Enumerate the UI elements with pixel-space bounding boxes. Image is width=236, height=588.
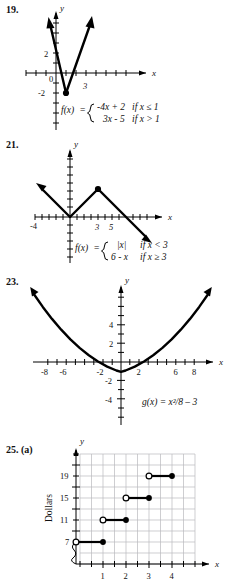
equation-23: g(x) = x²/8 – 3 (142, 397, 197, 408)
closed-endpoint-2 (146, 495, 152, 501)
x-tick-label-25a-3: 3 (147, 571, 151, 581)
equation-21-brace (102, 242, 109, 260)
x-tick-label-23-neg6: -6 (60, 367, 67, 377)
x-axis-arrow-19 (139, 71, 146, 76)
x-axis-arrow-23 (206, 360, 213, 365)
x-axis-label-21: x (167, 212, 172, 222)
y-axis-arrow-23 (119, 285, 124, 293)
y-tick-label-25a-11: 11 (60, 515, 68, 525)
branch-left-21 (43, 190, 70, 217)
x-tick-label-23-neg2: -2 (97, 367, 104, 377)
graph-21: x y -4 3 5 f(x) = |x| if x < 3 6 - x if … (22, 135, 232, 265)
x-axis-label-19: x (151, 68, 156, 78)
x-axis-arrow-25a (202, 562, 209, 567)
y-tick-label-23-4: 4 (109, 320, 114, 330)
origin-label-19: 0 (49, 74, 53, 84)
x-tick-label-21-5: 5 (109, 222, 113, 232)
problem-number-21: 21. (6, 139, 19, 150)
vertex-point-19 (63, 90, 69, 96)
graph-19: x y 0 3 2 -2 f(x) = -4x + 2 if x ≤ 1 3x … (28, 0, 228, 135)
axis-lines-25a (76, 450, 209, 564)
y-axis-label-19: y (59, 3, 64, 13)
equation-19-piece-1-expr: 3x - 5 (102, 114, 125, 124)
closed-endpoint-0 (100, 539, 106, 545)
y-axis-label-23: y (124, 275, 129, 285)
figure-21: 21. (0, 135, 236, 265)
equation-19-brace (88, 104, 95, 122)
open-endpoint-3 (146, 473, 152, 479)
branch-right-21 (98, 189, 145, 236)
equation-19: f(x) = -4x + 2 if x ≤ 1 3x - 5 if x > 1 (61, 102, 160, 124)
y-tick-label-25a-7: 7 (65, 537, 69, 547)
equation-19-piece-1-cond: if x > 1 (132, 114, 160, 124)
graph-23: x y -8 -6 -2 2 6 8 4 2 -2 -4 g(x) = x²/8… (8, 265, 233, 430)
y-axis-arrow-21 (68, 149, 73, 157)
branch-left-arrow-21 (36, 183, 47, 192)
y-tick-label-25a-19: 19 (60, 471, 69, 481)
problem-number-25a: 25. (a) (6, 444, 33, 455)
equation-21: f(x) = |x| if x < 3 6 - x if x ≥ 3 (75, 240, 168, 262)
equation-21-piece-1-cond: if x ≥ 3 (140, 252, 167, 262)
x-tick-label-23-2: 2 (137, 367, 141, 377)
x-tick-label-19-3: 3 (82, 81, 87, 91)
x-axis-label-23: x (218, 357, 223, 367)
figure-23: 23. (0, 265, 236, 430)
equation-21-equals: = (94, 243, 99, 253)
y-tick-label-23-2: 2 (109, 339, 113, 349)
problem-number-19: 19. (6, 4, 19, 15)
y-axis-label-25a: y (79, 436, 84, 446)
y-tick-label-25a-15: 15 (60, 493, 69, 503)
equation-19-equals: = (80, 105, 85, 115)
x-axis-label-25a: x (214, 559, 219, 569)
equation-19-piece-0-cond: if x ≤ 1 (132, 102, 159, 112)
figure-19: 19. (0, 0, 236, 135)
x-tick-label-25a-2: 2 (124, 571, 128, 581)
x-tick-label-25a-1: 1 (101, 571, 105, 581)
x-tick-label-23-6: 6 (174, 367, 178, 377)
x-tick-label-23-8: 8 (192, 367, 196, 377)
figure-25a: 25. (a) (0, 430, 236, 588)
equation-21-piece-0-cond: if x < 3 (140, 240, 168, 250)
y-axis-label-21: y (73, 139, 78, 149)
y-tick-label-19-2: 2 (44, 49, 48, 59)
graph-25a: x y 19 15 11 7 1 2 3 4 Dollars (46, 430, 236, 588)
x-tick-label-25a-4: 4 (170, 571, 175, 581)
closed-endpoint-3 (169, 473, 175, 479)
y-tick-label-23-neg2: -2 (105, 376, 112, 386)
x-tick-label-21-neg4: -4 (30, 221, 38, 231)
closed-endpoint-1 (123, 517, 129, 523)
equation-21-piece-0-expr: |x| (117, 240, 126, 250)
equation-19-fname: f(x) (61, 105, 74, 116)
grid-lines-25a (80, 454, 195, 564)
y-axis-arrow-25a (74, 448, 79, 456)
y-axis-title-25a: Dollars (44, 494, 54, 522)
branch-right-arrow-19 (86, 16, 95, 29)
equation-21-piece-1-expr: 6 - x (111, 252, 129, 262)
open-endpoint-0 (73, 539, 79, 545)
x-axis-arrow-21 (155, 215, 162, 220)
branch-mid-21 (70, 189, 98, 217)
y-tick-label-19-neg2: -2 (38, 88, 45, 98)
open-endpoint-1 (100, 517, 106, 523)
y-axis-arrow-19 (54, 11, 59, 19)
x-tick-label-21-3: 3 (94, 222, 99, 232)
x-tick-label-23-neg8: -8 (41, 367, 48, 377)
open-endpoint-2 (123, 495, 129, 501)
equation-19-piece-0-expr: -4x + 2 (97, 102, 125, 112)
corner-point-21 (95, 186, 101, 192)
y-tick-label-23-neg4: -4 (105, 395, 113, 405)
equation-21-fname: f(x) (75, 243, 88, 254)
